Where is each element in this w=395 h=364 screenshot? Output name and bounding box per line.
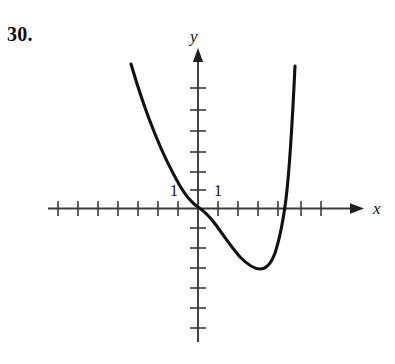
y-axis-label: y bbox=[188, 27, 198, 46]
x-unit-tick-label: 1 bbox=[214, 182, 222, 199]
polynomial-curve bbox=[131, 64, 295, 269]
x-axis-label: x bbox=[372, 199, 381, 218]
graph-canvas: y x 1 1 bbox=[0, 0, 395, 364]
y-axis-arrowhead-icon bbox=[193, 48, 203, 62]
y-unit-tick-label: 1 bbox=[170, 182, 178, 199]
figure-container: 30. bbox=[0, 0, 395, 364]
x-axis-arrowhead-icon bbox=[350, 203, 364, 213]
